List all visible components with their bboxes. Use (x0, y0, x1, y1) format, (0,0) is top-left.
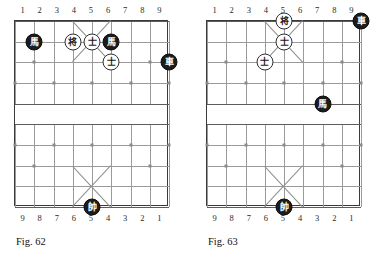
file-numbers-top-62: 1 2 3 4 5 6 7 8 9 (14, 2, 168, 18)
file-number: 7 (48, 210, 65, 226)
board-rank-line (207, 166, 361, 167)
file-number: 3 (48, 2, 65, 18)
board-star-point (148, 61, 151, 64)
black-marshal-file5[interactable]: 帥 (84, 199, 101, 216)
figure-63: 1 2 3 4 5 6 7 8 9 将車士士馬帥 9 8 7 6 5 4 3 2… (192, 0, 383, 268)
page-root: 1 2 3 4 5 6 7 8 9 馬将士馬士車帥 9 8 7 6 5 4 3 … (0, 0, 383, 268)
board-star-point (129, 144, 132, 147)
board-star-point (129, 82, 132, 85)
red-advisor-file5[interactable]: 士 (84, 33, 101, 50)
file-number: 6 (65, 210, 82, 226)
file-number: 7 (240, 210, 257, 226)
file-number: 6 (100, 2, 117, 18)
board-file-line (361, 21, 362, 207)
file-number: 3 (309, 210, 326, 226)
figure-62: 1 2 3 4 5 6 7 8 9 馬将士馬士車帥 9 8 7 6 5 4 3 … (0, 0, 191, 268)
black-horse-file2[interactable]: 馬 (26, 33, 43, 50)
board-rank-line (15, 166, 169, 167)
file-number: 4 (257, 2, 274, 18)
board-star-point (91, 82, 94, 85)
red-advisor-file6[interactable]: 士 (103, 54, 120, 71)
board-star-point (91, 144, 94, 147)
file-number: 4 (100, 210, 117, 226)
board-star-point (52, 82, 55, 85)
file-number: 2 (223, 2, 240, 18)
board-star-point (360, 82, 363, 85)
board-rank-line (15, 124, 169, 125)
file-number: 7 (309, 2, 326, 18)
board-rank-line (207, 124, 361, 125)
file-number: 8 (31, 210, 48, 226)
figure-caption: Fig. 63 (208, 236, 238, 247)
file-number: 8 (326, 2, 343, 18)
black-chariot-file9[interactable]: 車 (161, 54, 178, 71)
board-star-point (283, 82, 286, 85)
board-star-point (33, 164, 36, 167)
board-star-point (225, 61, 228, 64)
board-star-point (340, 61, 343, 64)
board-star-point (148, 164, 151, 167)
black-marshal-file5[interactable]: 帥 (276, 199, 293, 216)
board-file-line (169, 21, 170, 207)
board-star-point (321, 144, 324, 147)
file-number: 1 (343, 210, 360, 226)
file-number: 2 (31, 2, 48, 18)
river-band (15, 105, 167, 125)
board-star-point (168, 144, 171, 147)
board-star-point (244, 82, 247, 85)
file-number: 9 (151, 2, 168, 18)
file-number: 7 (117, 2, 134, 18)
file-number: 8 (223, 210, 240, 226)
file-number: 2 (134, 210, 151, 226)
board-star-point (14, 82, 17, 85)
board-star-point (14, 144, 17, 147)
board-rank-line (15, 21, 169, 22)
board-star-point (168, 82, 171, 85)
red-general-file4[interactable]: 将 (64, 33, 81, 50)
file-number: 8 (134, 2, 151, 18)
board-star-point (340, 164, 343, 167)
file-number: 3 (240, 2, 257, 18)
black-horse-file7[interactable]: 馬 (314, 95, 331, 112)
file-number: 5 (82, 2, 99, 18)
board-star-point (225, 164, 228, 167)
board-star-point (206, 144, 209, 147)
file-number: 4 (65, 2, 82, 18)
board-rank-line (207, 62, 361, 63)
board-star-point (206, 82, 209, 85)
board-rank-line (15, 62, 169, 63)
file-number: 6 (257, 210, 274, 226)
board-star-point (283, 144, 286, 147)
file-number: 1 (206, 2, 223, 18)
file-number: 6 (292, 2, 309, 18)
board-star-point (360, 144, 363, 147)
black-horse-file6[interactable]: 馬 (103, 33, 120, 50)
file-number: 3 (117, 210, 134, 226)
xiangqi-board-62[interactable]: 馬将士馬士車帥 (14, 20, 168, 206)
board-star-point (52, 144, 55, 147)
board-star-point (244, 144, 247, 147)
red-advisor-file5[interactable]: 士 (276, 33, 293, 50)
file-number: 1 (14, 2, 31, 18)
file-number: 9 (14, 210, 31, 226)
figure-caption: Fig. 62 (16, 236, 46, 247)
file-number: 2 (326, 210, 343, 226)
file-number: 1 (151, 210, 168, 226)
board-star-point (33, 61, 36, 64)
xiangqi-board-63[interactable]: 将車士士馬帥 (206, 20, 360, 206)
red-advisor-file4[interactable]: 士 (256, 54, 273, 71)
board-star-point (321, 82, 324, 85)
file-number: 4 (292, 210, 309, 226)
red-general-file5[interactable]: 将 (276, 13, 293, 30)
black-chariot-file9[interactable]: 車 (353, 13, 370, 30)
file-number: 9 (206, 210, 223, 226)
river-band (207, 105, 359, 125)
